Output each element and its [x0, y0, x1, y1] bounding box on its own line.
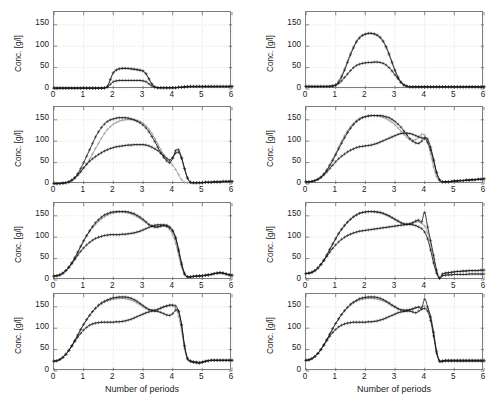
xtick-label: 6	[224, 281, 238, 290]
ytick-label: 50	[27, 252, 49, 261]
y-axis-label: Conc. [g/l]	[266, 130, 275, 167]
axes-box	[305, 293, 483, 370]
xtick-label: 3	[135, 372, 149, 381]
xtick-label: 0	[46, 372, 60, 381]
y-axis-label: Conc. [g/l]	[14, 35, 23, 72]
subplot-r1c1: 0501001500123456Conc. [g/l]	[53, 11, 231, 88]
xtick-label: 6	[476, 372, 490, 381]
axes-box	[305, 106, 483, 183]
ytick-label: 150	[27, 18, 49, 27]
xtick-label: 4	[165, 90, 179, 99]
xtick-label: 4	[417, 185, 431, 194]
xtick-label: 5	[446, 185, 460, 194]
x-axis-label: Number of periods	[305, 384, 483, 394]
xtick-label: 0	[298, 281, 312, 290]
ytick-label: 100	[279, 135, 301, 144]
xtick-label: 3	[387, 372, 401, 381]
xtick-label: 5	[446, 372, 460, 381]
y-axis-label: Conc. [g/l]	[266, 35, 275, 72]
axes-box	[305, 202, 483, 279]
ytick-label: 100	[279, 231, 301, 240]
xtick-label: 1	[76, 90, 90, 99]
xtick-label: 2	[357, 372, 371, 381]
ytick-label: 100	[27, 231, 49, 240]
xtick-label: 6	[224, 90, 238, 99]
xtick-label: 0	[46, 90, 60, 99]
ytick-label: 50	[279, 156, 301, 165]
axes-box	[53, 11, 231, 88]
xtick-label: 2	[105, 90, 119, 99]
ytick-label: 150	[279, 113, 301, 122]
axes-box	[53, 202, 231, 279]
xtick-label: 1	[328, 90, 342, 99]
ytick-label: 100	[279, 40, 301, 49]
xtick-label: 1	[328, 281, 342, 290]
subplot-r2c2: 0501001500123456Conc. [g/l]	[305, 106, 483, 183]
xtick-label: 3	[135, 90, 149, 99]
xtick-label: 0	[298, 372, 312, 381]
xtick-label: 5	[194, 281, 208, 290]
y-axis-label: Conc. [g/l]	[14, 317, 23, 354]
xtick-label: 3	[135, 185, 149, 194]
ytick-label: 50	[279, 252, 301, 261]
subplot-r4c1: 0501001500123456Conc. [g/l]Number of per…	[53, 293, 231, 370]
xtick-label: 6	[476, 185, 490, 194]
ytick-label: 150	[27, 209, 49, 218]
xtick-label: 2	[105, 185, 119, 194]
xtick-label: 3	[135, 281, 149, 290]
subplot-r1c2: 0501001500123456Conc. [g/l]	[305, 11, 483, 88]
ytick-label: 100	[279, 322, 301, 331]
xtick-label: 2	[105, 281, 119, 290]
subplot-r4c2: 0501001500123456Conc. [g/l]Number of per…	[305, 293, 483, 370]
axes-box	[53, 293, 231, 370]
subplot-r2c1: 0501001500123456Conc. [g/l]	[53, 106, 231, 183]
y-axis-label: Conc. [g/l]	[14, 130, 23, 167]
xtick-label: 0	[298, 185, 312, 194]
xtick-label: 6	[224, 185, 238, 194]
xtick-label: 3	[387, 185, 401, 194]
xtick-label: 2	[105, 372, 119, 381]
xtick-label: 1	[76, 281, 90, 290]
ytick-label: 150	[279, 300, 301, 309]
ytick-label: 150	[27, 300, 49, 309]
ytick-label: 100	[27, 40, 49, 49]
ytick-label: 50	[279, 343, 301, 352]
xtick-label: 5	[194, 90, 208, 99]
xtick-label: 4	[165, 185, 179, 194]
subplot-r3c1: 0501001500123456Conc. [g/l]	[53, 202, 231, 279]
ytick-label: 150	[27, 113, 49, 122]
ytick-label: 100	[27, 135, 49, 144]
xtick-label: 0	[46, 281, 60, 290]
ytick-label: 150	[279, 209, 301, 218]
subplot-r3c2: 0501001500123456Conc. [g/l]	[305, 202, 483, 279]
xtick-label: 1	[76, 372, 90, 381]
xtick-label: 6	[476, 281, 490, 290]
xtick-label: 1	[328, 372, 342, 381]
y-axis-label: Conc. [g/l]	[14, 226, 23, 263]
xtick-label: 1	[328, 185, 342, 194]
axes-box	[305, 11, 483, 88]
xtick-label: 5	[446, 281, 460, 290]
ytick-label: 50	[27, 156, 49, 165]
xtick-label: 6	[476, 90, 490, 99]
ytick-label: 150	[279, 18, 301, 27]
ytick-label: 50	[279, 61, 301, 70]
xtick-label: 4	[417, 90, 431, 99]
xtick-label: 2	[357, 185, 371, 194]
xtick-label: 4	[165, 281, 179, 290]
axes-box	[53, 106, 231, 183]
xtick-label: 4	[165, 372, 179, 381]
xtick-label: 2	[357, 281, 371, 290]
ytick-label: 50	[27, 61, 49, 70]
xtick-label: 1	[76, 185, 90, 194]
xtick-label: 2	[357, 90, 371, 99]
xtick-label: 3	[387, 281, 401, 290]
xtick-label: 5	[194, 185, 208, 194]
xtick-label: 6	[224, 372, 238, 381]
xtick-label: 4	[417, 281, 431, 290]
xtick-label: 5	[446, 90, 460, 99]
x-axis-label: Number of periods	[53, 384, 231, 394]
figure-canvas: 0501001500123456Conc. [g/l]0501001500123…	[0, 0, 497, 406]
xtick-label: 0	[298, 90, 312, 99]
xtick-label: 5	[194, 372, 208, 381]
